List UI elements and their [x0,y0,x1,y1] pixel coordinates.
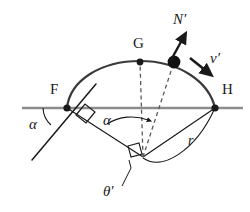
label-point-f: F [50,82,58,97]
velocity-arrow [190,58,205,70]
label-point-h: H [222,82,233,97]
label-normal-force: N′ [173,12,186,27]
label-velocity: v′ [210,51,220,66]
label-theta-prime: θ′ [103,184,114,199]
alpha-arc-f [43,108,51,125]
radius-measure-arc [143,110,214,162]
radius-h-center [143,108,215,157]
particle-marker [168,56,181,69]
theta-leader-line [122,160,131,186]
label-alpha-at-f: α [29,117,37,132]
label-alpha-at-center: α [103,113,111,128]
geometry-figure: F G H α α θ′ N′ v′ r [0,0,250,212]
point-marker-g [137,59,144,66]
point-marker-f [63,104,70,111]
dashed-radius-to-particle [143,62,174,157]
dashed-radius-to-g [140,62,143,157]
label-point-g: G [133,36,144,51]
right-angle-marker-center [128,143,142,157]
point-marker-h [211,104,218,111]
label-radius: r [188,134,193,148]
figure-canvas [0,0,250,212]
